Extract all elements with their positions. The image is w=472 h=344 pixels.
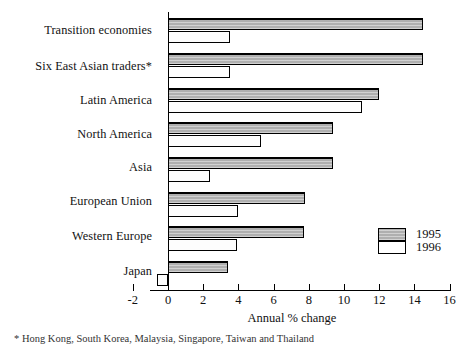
bar-1996-transition-economies xyxy=(168,31,230,43)
bar-1995-european-union xyxy=(168,192,305,204)
category-label-six-east-asian-traders: Six East Asian traders* xyxy=(35,60,152,72)
x-tick-16 xyxy=(450,284,451,291)
x-tick-label-14: 14 xyxy=(408,293,421,308)
x-tick-label-10: 10 xyxy=(338,293,351,308)
bar-1996-asia xyxy=(168,170,210,182)
category-label-latin-america: Latin America xyxy=(80,94,152,106)
category-label-transition-economies: Transition economies xyxy=(44,24,152,36)
x-tick-label-2: 2 xyxy=(200,293,206,308)
bar-1996-latin-america xyxy=(168,101,362,113)
bar-1995-six-east-asian-traders xyxy=(168,53,423,65)
x-tick-neg2 xyxy=(133,284,134,291)
bar-1996-north-america xyxy=(168,135,261,147)
x-tick-10 xyxy=(344,284,345,291)
category-label-asia: Asia xyxy=(129,161,152,173)
legend: 1995 1996 xyxy=(378,228,466,264)
category-axis-labels: Transition economies Six East Asian trad… xyxy=(0,0,160,290)
bar-1996-european-union xyxy=(168,205,238,217)
x-tick-14 xyxy=(414,284,415,291)
category-label-north-america: North America xyxy=(77,128,152,140)
bar-1995-latin-america xyxy=(168,88,379,100)
x-tick-label-8: 8 xyxy=(306,293,312,308)
x-tick-6 xyxy=(274,284,275,291)
legend-label-1996: 1996 xyxy=(416,241,441,254)
bar-1995-japan xyxy=(168,261,228,273)
bar-1996-western-europe xyxy=(168,239,237,251)
x-axis-title: Annual % change xyxy=(0,311,472,326)
x-tick-label-16: 16 xyxy=(443,293,456,308)
x-tick-4 xyxy=(238,284,239,291)
category-label-european-union: European Union xyxy=(70,195,152,207)
x-tick-8 xyxy=(309,284,310,291)
x-tick-12 xyxy=(379,284,380,291)
bar-1996-japan xyxy=(157,274,168,286)
bar-1995-north-america xyxy=(168,122,333,134)
x-axis-line-negative xyxy=(150,290,168,291)
x-tick-label-0: 0 xyxy=(165,293,171,308)
legend-swatch-1996 xyxy=(378,241,406,254)
bar-1995-asia xyxy=(168,157,333,169)
bar-1995-western-europe xyxy=(168,226,304,238)
x-tick-label-4: 4 xyxy=(235,293,241,308)
x-tick-label-neg2: -2 xyxy=(128,293,138,308)
x-tick-label-6: 6 xyxy=(270,293,276,308)
x-tick-0 xyxy=(168,284,169,291)
x-tick-2 xyxy=(203,284,204,291)
bar-1996-six-east-asian-traders xyxy=(168,66,230,78)
x-axis-title-text: Annual % change xyxy=(248,311,337,325)
legend-swatch-1995 xyxy=(378,228,406,241)
chart-footnote: * Hong Kong, South Korea, Malaysia, Sing… xyxy=(14,333,314,344)
bar-1995-transition-economies xyxy=(168,18,423,30)
x-tick-label-12: 12 xyxy=(373,293,386,308)
category-label-japan: Japan xyxy=(124,265,153,277)
category-label-western-europe: Western Europe xyxy=(72,230,152,242)
